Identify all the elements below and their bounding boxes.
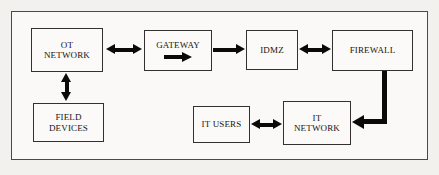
node-firewall[interactable]: FIREWALL: [332, 30, 413, 71]
connector-ot-network-gateway-double-arrow-icon: [106, 44, 142, 55]
node-it-network-label: IT NETWORK: [294, 113, 340, 133]
node-it-users-label: IT USERS: [202, 119, 242, 129]
network-architecture-diagram: OT NETWORK GATEWAY IDMZ FIREWALL FIELD D…: [0, 0, 439, 175]
node-gateway-label: GATEWAY: [156, 40, 200, 50]
node-gateway[interactable]: GATEWAY: [144, 30, 212, 71]
node-field-devices[interactable]: FIELD DEVICES: [33, 103, 104, 142]
node-ot-network[interactable]: OT NETWORK: [31, 28, 103, 72]
right-arrow-icon: [164, 52, 192, 61]
node-idmz-label: IDMZ: [260, 45, 284, 55]
node-it-users[interactable]: IT USERS: [193, 106, 250, 143]
node-ot-network-label: OT NETWORK: [44, 40, 90, 60]
node-it-network[interactable]: IT NETWORK: [283, 101, 351, 145]
connector-firewall-it-network-elbow-arrow-icon: [352, 71, 396, 137]
connector-ot-network-field-devices-double-arrow-icon: [61, 73, 72, 101]
node-field-devices-label: FIELD DEVICES: [49, 112, 88, 132]
node-idmz[interactable]: IDMZ: [246, 30, 298, 70]
connector-gateway-idmz-right-arrow-icon: [213, 44, 245, 55]
node-firewall-label: FIREWALL: [350, 45, 396, 55]
connector-idmz-firewall-double-arrow-icon: [299, 44, 331, 55]
connector-it-users-it-network-double-arrow-icon: [251, 119, 282, 130]
